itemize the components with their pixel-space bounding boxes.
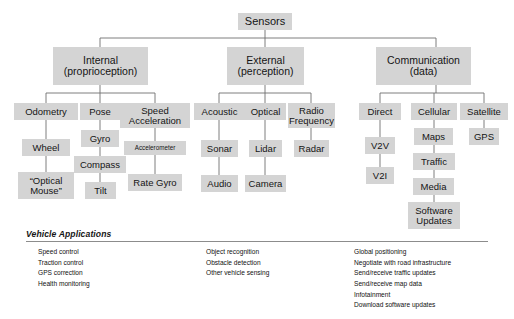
node-maps: Maps bbox=[414, 128, 453, 145]
node-v2i: V2I bbox=[366, 167, 394, 184]
node-pose: Pose bbox=[80, 103, 120, 120]
node-camera: Camera bbox=[245, 175, 286, 192]
node-acoustic: Acoustic bbox=[194, 103, 245, 120]
node-compass: Compass bbox=[74, 156, 126, 173]
node-gps: GPS bbox=[469, 128, 499, 145]
node-internal: Internal (proprioception) bbox=[53, 47, 148, 85]
node-optical-mouse: “Optical Mouse” bbox=[18, 172, 74, 199]
node-traffic: Traffic bbox=[413, 153, 455, 170]
node-media: Media bbox=[413, 178, 454, 195]
node-radio-frequency: Radio Frequency bbox=[288, 103, 335, 128]
node-gyro: Gyro bbox=[81, 130, 119, 147]
node-audio: Audio bbox=[201, 175, 238, 192]
node-rate-gyro: Rate Gyro bbox=[128, 174, 182, 191]
node-wheel: Wheel bbox=[22, 139, 70, 156]
node-cellular: Cellular bbox=[411, 103, 457, 120]
node-sensors: Sensors bbox=[238, 13, 292, 30]
node-accelerometer: Accelerometer bbox=[124, 141, 186, 155]
node-v2v: V2V bbox=[365, 137, 395, 154]
node-sonar: Sonar bbox=[201, 140, 238, 157]
node-optical: Optical bbox=[245, 103, 286, 120]
sensor-taxonomy-diagram: Sensors Internal (proprioception) Extern… bbox=[0, 0, 514, 319]
node-odometry: Odometry bbox=[14, 103, 78, 120]
node-communication: Communication (data) bbox=[376, 47, 471, 85]
node-software-updates: Software Updates bbox=[408, 202, 460, 229]
node-external: External (perception) bbox=[227, 47, 304, 85]
node-satellite: Satellite bbox=[460, 103, 508, 120]
node-tilt: Tilt bbox=[85, 182, 116, 199]
node-speed-acceleration: Speed Acceleration bbox=[120, 103, 190, 128]
node-direct: Direct bbox=[359, 103, 401, 120]
node-radar: Radar bbox=[294, 140, 329, 157]
node-lidar: Lidar bbox=[249, 140, 282, 157]
